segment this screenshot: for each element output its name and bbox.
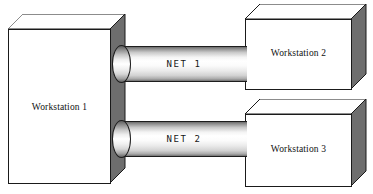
network-diagram: Workstation 1 Workstation 2 Wo (0, 0, 373, 194)
workstation-3-top-face (245, 99, 367, 114)
net-2-cylinder-body (121, 121, 247, 157)
net-1-cylinder-body (121, 46, 247, 82)
workstation-2-top-face (245, 4, 367, 19)
workstation-3-side-face (351, 99, 367, 187)
workstation-1-front-face (8, 29, 111, 184)
workstation-2-side-face (351, 4, 367, 90)
net-2-cylinder-cap (112, 120, 131, 158)
net-2-link[interactable]: NET 2 (121, 121, 247, 157)
workstation-1-box[interactable]: Workstation 1 (8, 14, 126, 184)
workstation-3-box[interactable]: Workstation 3 (245, 99, 367, 187)
workstation-1-side-face (110, 14, 126, 184)
workstation-1-top-face (8, 14, 126, 29)
net-1-cylinder-cap (112, 45, 131, 83)
workstation-2-box[interactable]: Workstation 2 (245, 4, 367, 90)
workstation-2-front-face (245, 19, 352, 90)
net-1-link[interactable]: NET 1 (121, 46, 247, 82)
workstation-3-front-face (245, 114, 352, 187)
